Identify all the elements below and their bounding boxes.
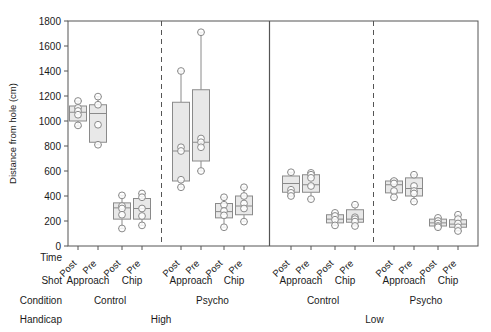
data-point <box>75 98 82 105</box>
data-point <box>241 205 248 212</box>
data-point <box>352 201 359 208</box>
data-point <box>95 93 102 100</box>
shot-label-5: Chip <box>335 275 356 286</box>
data-point <box>391 194 398 201</box>
data-point <box>308 183 315 190</box>
time-label-1: Pre <box>80 258 98 276</box>
data-point <box>435 224 442 231</box>
data-point <box>95 101 102 108</box>
data-point <box>241 218 248 225</box>
data-point <box>198 144 205 151</box>
row-label-shot: Shot <box>41 275 62 286</box>
data-point <box>288 193 295 200</box>
data-point <box>119 225 126 232</box>
data-point <box>119 211 126 218</box>
data-point <box>198 168 205 175</box>
data-point <box>198 29 205 36</box>
data-point <box>411 171 418 178</box>
y-tick-label-200: 200 <box>44 216 61 227</box>
data-point <box>308 174 315 181</box>
time-label-7: Pre <box>226 258 244 276</box>
handicap-label-1: Low <box>365 314 384 325</box>
y-tick-label-1200: 1200 <box>39 91 62 102</box>
figure-container: 020040060080010001200140016001800Distanc… <box>0 0 491 332</box>
data-point <box>288 169 295 176</box>
shot-label-6: Approach <box>383 275 426 286</box>
box-iqr <box>173 102 190 181</box>
data-point <box>241 193 248 200</box>
y-tick-label-800: 800 <box>44 141 61 152</box>
y-tick-label-1800: 1800 <box>39 16 62 27</box>
data-point <box>221 212 228 219</box>
data-point <box>139 194 146 201</box>
data-point <box>139 213 146 220</box>
data-point <box>139 205 146 212</box>
condition-label-2: Control <box>307 295 339 306</box>
y-axis-title: Distance from hole (cm) <box>7 83 18 184</box>
time-label-5: Pre <box>183 258 201 276</box>
shot-label-0: Approach <box>67 275 110 286</box>
handicap-label-0: High <box>151 314 172 325</box>
data-point <box>352 223 359 230</box>
data-point <box>221 194 228 201</box>
y-tick-label-400: 400 <box>44 191 61 202</box>
data-point <box>178 176 185 183</box>
condition-label-0: Control <box>94 295 126 306</box>
y-tick-label-1400: 1400 <box>39 66 62 77</box>
shot-label-2: Approach <box>170 275 213 286</box>
time-label-3: Pre <box>124 258 142 276</box>
y-tick-label-0: 0 <box>55 241 61 252</box>
data-point <box>178 68 185 75</box>
shot-label-4: Approach <box>280 275 323 286</box>
data-point <box>95 121 102 128</box>
condition-label-3: Psycho <box>410 295 443 306</box>
data-point <box>178 148 185 155</box>
y-tick-label-600: 600 <box>44 166 61 177</box>
shot-label-3: Chip <box>224 275 245 286</box>
data-point <box>75 122 82 129</box>
data-point <box>308 196 315 203</box>
data-point <box>411 190 418 197</box>
y-tick-label-1600: 1600 <box>39 41 62 52</box>
condition-label-1: Psycho <box>196 295 229 306</box>
data-point <box>95 141 102 148</box>
data-point <box>391 180 398 187</box>
y-tick-label-1000: 1000 <box>39 116 62 127</box>
time-label-9: Pre <box>293 258 311 276</box>
row-label-time: Time <box>40 252 62 263</box>
row-label-condition: Condition <box>20 295 62 306</box>
data-point <box>221 224 228 231</box>
row-label-handicap: Handicap <box>20 314 63 325</box>
time-label-11: Pre <box>337 258 355 276</box>
shot-label-7: Chip <box>438 275 459 286</box>
time-label-15: Pre <box>440 258 458 276</box>
data-point <box>411 198 418 205</box>
boxplot-figure: 020040060080010001200140016001800Distanc… <box>0 0 491 332</box>
data-point <box>119 192 126 199</box>
data-point <box>75 111 82 118</box>
shot-label-1: Chip <box>122 275 143 286</box>
data-point <box>241 184 248 191</box>
data-point <box>178 184 185 191</box>
data-point <box>455 228 462 235</box>
time-label-13: Pre <box>396 258 414 276</box>
data-point <box>332 222 339 229</box>
data-point <box>139 222 146 229</box>
